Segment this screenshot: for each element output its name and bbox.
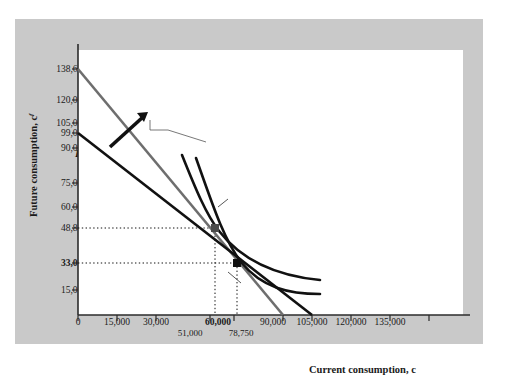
x-tick-78750: 78,750	[219, 328, 263, 338]
x-tick-30000: 30,000	[136, 317, 176, 327]
x-tick-90000: 90,000	[253, 317, 293, 327]
bl2-label: BL2	[99, 71, 117, 85]
x-tick-135000: 135,000	[369, 317, 411, 327]
ic2-label: IC2	[286, 250, 300, 263]
x-tick-105000: 105,000	[291, 317, 333, 327]
ic1-label: IC1	[286, 264, 300, 277]
old-consumption-point-caption: Old consumption point	[89, 283, 177, 294]
ic1-label-text: IC	[286, 266, 297, 277]
x-axis-title: Current consumption, c	[309, 364, 416, 375]
bl2-label-text: BL	[99, 73, 113, 85]
interest-rate-callout: Real interest rate increases from 10% to…	[183, 108, 265, 152]
ic2-label-text: IC	[286, 252, 297, 263]
bl1-label-sup: 1	[89, 145, 93, 154]
new-consumption-point-caption: New consumption point	[222, 203, 313, 214]
x-axis-title-text: Current consumption, c	[309, 364, 416, 375]
x-tick-15000: 15,000	[97, 317, 137, 327]
x-tick-51000: 51,000	[170, 328, 210, 338]
bl2-label-sup: 2	[113, 71, 117, 80]
point-v-label: V	[202, 222, 209, 233]
bl1-label-text: BL	[75, 147, 89, 159]
x-tick-label-group: 0 15,000 30,000 51,000 60,000 78,750 90,…	[15, 19, 483, 344]
ic1-label-sup: 1	[297, 264, 301, 273]
x-tick-60000: 60,000	[198, 317, 238, 327]
bl1-label: BL1	[75, 145, 93, 159]
figure-panel: Future consumption, cf Current consumpti…	[15, 19, 483, 344]
callout-line-1: Real interest	[190, 112, 258, 124]
callout-line-2: rate increases	[190, 124, 258, 136]
x-tick-0: 0	[58, 317, 98, 327]
point-e-label: E	[224, 262, 231, 273]
callout-line-3: from 10% to 76%	[190, 135, 258, 147]
ic2-label-sup: 2	[297, 250, 301, 259]
x-tick-120000: 120,000	[330, 317, 372, 327]
